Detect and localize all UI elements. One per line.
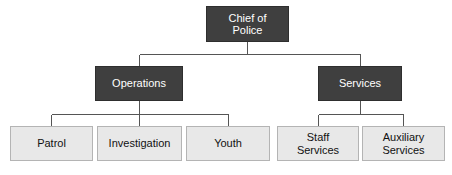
org-chart: Chief of Police Operations Services Patr…	[0, 0, 452, 175]
node-operations-label: Operations	[112, 77, 166, 89]
node-youth[interactable]: Youth	[186, 126, 270, 161]
node-investigation[interactable]: Investigation	[97, 126, 182, 161]
node-staff-services[interactable]: Staff Services	[277, 126, 359, 161]
node-auxiliary-services[interactable]: Auxiliary Services	[362, 126, 445, 161]
node-patrol[interactable]: Patrol	[10, 126, 93, 161]
node-chief-of-police[interactable]: Chief of Police	[206, 6, 289, 42]
node-staff-services-label: Staff Services	[297, 131, 339, 156]
node-operations[interactable]: Operations	[95, 66, 183, 101]
node-youth-label: Youth	[214, 137, 242, 149]
node-auxiliary-services-label: Auxiliary Services	[382, 131, 424, 156]
node-chief-of-police-label: Chief of Police	[229, 12, 267, 37]
node-patrol-label: Patrol	[37, 137, 66, 149]
node-services[interactable]: Services	[318, 66, 402, 101]
node-investigation-label: Investigation	[109, 137, 171, 149]
node-services-label: Services	[339, 77, 381, 89]
